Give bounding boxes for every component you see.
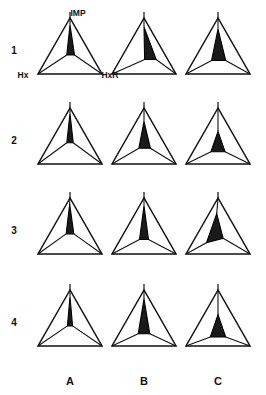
column-label-C: C [214, 375, 222, 387]
connector-line [38, 234, 66, 254]
row-label-3: 3 [11, 225, 17, 236]
column-label-B: B [140, 375, 148, 387]
ternary-panel-2A [38, 102, 102, 164]
column-label-group: ABC [66, 375, 222, 387]
inner-region [144, 27, 156, 59]
connector-line [156, 59, 176, 74]
ternary-panel-3B [112, 192, 176, 254]
column-label-A: A [66, 375, 74, 387]
inner-region [210, 315, 225, 337]
inner-region [67, 297, 72, 326]
ternary-panel-1C [186, 12, 250, 74]
connector-line [38, 143, 67, 164]
vertex-label-hxr: HxR [101, 70, 118, 80]
panel-grid [38, 12, 250, 346]
connector-line [74, 234, 102, 254]
row-label-4: 4 [11, 317, 17, 328]
row-label-1: 1 [11, 45, 17, 56]
ternary-panel-4B [112, 284, 176, 346]
connector-line [38, 326, 67, 346]
ternary-panel-3A [38, 192, 102, 254]
inner-region [206, 214, 223, 243]
connector-line [73, 326, 102, 346]
ternary-panel-4A [38, 284, 102, 346]
inner-region [139, 121, 151, 148]
figure-canvas: IMP Hx HxR 1234 ABC [0, 0, 266, 395]
ternary-panel-1B [112, 12, 176, 74]
connector-line [74, 55, 102, 74]
inner-region [211, 132, 225, 152]
ternary-panel-2C [186, 102, 250, 164]
inner-region [138, 299, 150, 334]
inner-region [67, 25, 75, 55]
ternary-panel-3C [186, 192, 250, 254]
row-label-group: 1234 [11, 45, 17, 328]
ternary-panel-2B [112, 102, 176, 164]
vertex-label-hx: Hx [18, 70, 29, 80]
row-label-2: 2 [11, 135, 17, 146]
inner-region [67, 114, 73, 143]
apex-label-imp: IMP [70, 8, 85, 18]
connector-line [73, 143, 102, 164]
inner-region [140, 206, 149, 240]
ternary-panel-4C [186, 284, 250, 346]
connector-line [38, 55, 67, 74]
ternary-diagram-figure: IMP Hx HxR 1234 ABC [0, 0, 266, 395]
ternary-panel-1A [38, 12, 102, 74]
inner-region [212, 29, 226, 60]
inner-region [66, 204, 74, 234]
